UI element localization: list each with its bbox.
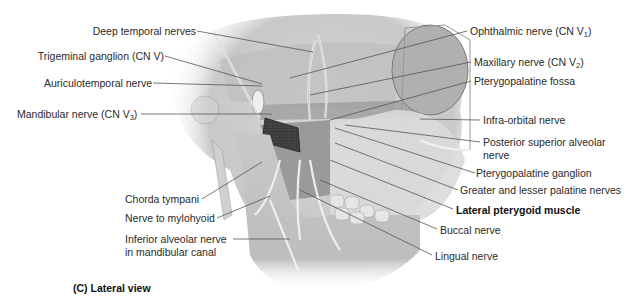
label-posterior-superior-alveolar: Posterior superior alveolar	[483, 136, 606, 148]
label-lingual-nerve: Lingual nerve	[435, 250, 498, 262]
label-buccal-nerve: Buccal nerve	[440, 224, 501, 236]
label-trigeminal-ganglion: Trigeminal ganglion (CN V)	[20, 50, 164, 62]
label-posterior-superior-alveolar-line2: nerve	[483, 149, 509, 161]
label-ophthalmic-nerve: Ophthalmic nerve (CN V1)	[470, 25, 591, 37]
anatomy-figure: Deep temporal nerves Trigeminal ganglion…	[0, 0, 642, 304]
label-nerve-to-mylohyoid: Nerve to mylohyoid	[125, 212, 215, 224]
label-palatine-nerves: Greater and lesser palatine nerves	[460, 184, 621, 196]
skull-illustration	[0, 0, 642, 304]
label-infra-orbital-nerve: Infra-orbital nerve	[483, 114, 565, 126]
label-lateral-pterygoid-muscle: Lateral pterygoid muscle	[456, 204, 580, 216]
figure-caption: (C) Lateral view	[73, 282, 151, 294]
label-inferior-alveolar-nerve-line2: in mandibular canal	[125, 246, 216, 258]
label-mandibular-nerve: Mandibular nerve (CN V3)	[17, 108, 137, 120]
label-maxillary-nerve: Maxillary nerve (CN V2)	[474, 56, 584, 68]
label-deep-temporal-nerves: Deep temporal nerves	[60, 25, 196, 37]
label-inferior-alveolar-nerve: Inferior alveolar nerve	[125, 233, 227, 245]
label-auriculotemporal-nerve: Auriculotemporal nerve	[20, 77, 152, 89]
label-pterygopalatine-ganglion: Pterygopalatine ganglion	[476, 167, 592, 179]
label-pterygopalatine-fossa: Pterygopalatine fossa	[474, 75, 575, 87]
label-chorda-tympani: Chorda tympani	[125, 193, 199, 205]
trigeminal-ganglion-stump	[252, 90, 264, 114]
